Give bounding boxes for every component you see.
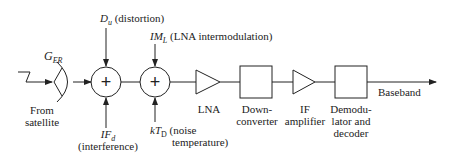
- summer-1-plus: +: [101, 72, 112, 92]
- intermodulation-label: IML (LNA intermodulation): [150, 30, 272, 42]
- if-amplifier-label: IFamplifier: [280, 103, 330, 127]
- noise-label: kTD (noise temperature): [150, 124, 228, 148]
- antenna-gain-label: GER: [44, 50, 62, 62]
- downconverter-block: [240, 66, 272, 98]
- if-amplifier-icon: [293, 70, 315, 94]
- source-label: Fromsatellite: [22, 104, 62, 128]
- downconverter-label: Down-converter: [232, 103, 282, 127]
- lna-amplifier-icon: [196, 70, 220, 94]
- antenna-dish-icon: [57, 62, 68, 102]
- demodulator-block: [335, 66, 367, 98]
- demodulator-label: Demodu-lator anddecoder: [326, 103, 376, 139]
- lna-label: LNA: [194, 103, 224, 115]
- baseband-label: Baseband: [378, 86, 421, 98]
- interference-label: IFd (interference): [78, 128, 138, 152]
- distortion-label: Du (distortion): [100, 12, 164, 24]
- incoming-signal-icon: [18, 72, 52, 82]
- summer-2-plus: +: [150, 72, 161, 92]
